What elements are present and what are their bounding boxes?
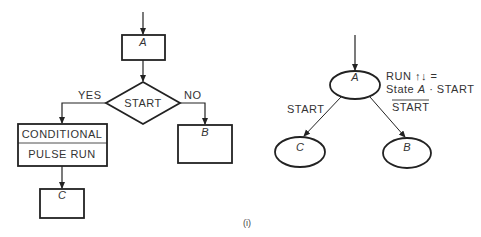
output-line2-prefix: State <box>386 83 418 95</box>
state-c-label-sd: C <box>296 141 304 153</box>
state-a-label: A <box>138 36 146 48</box>
state-b-label-sd: B <box>403 141 410 153</box>
state-c-label: C <box>58 189 66 201</box>
flowchart: A START YES NO CONDITIONAL PULSE RUN B C <box>18 12 232 218</box>
yes-label: YES <box>78 89 102 101</box>
transition-to-b-label: START <box>392 101 430 113</box>
no-label: NO <box>184 89 202 101</box>
action-line2: PULSE RUN <box>28 148 95 160</box>
state-a-label-sd: A <box>350 71 358 83</box>
state-diagram: A RUN ↑↓ = State A · START START START C… <box>275 35 474 168</box>
decision-label: START <box>124 97 162 109</box>
output-line2-suffix: · START <box>426 83 475 95</box>
state-b-label: B <box>201 126 208 138</box>
transition-to-c-label: START <box>287 103 325 115</box>
output-line2: State A · START <box>386 83 474 95</box>
action-line1: CONDITIONAL <box>22 128 103 140</box>
output-line1: RUN ↑↓ = <box>386 70 437 82</box>
output-line2-state: A <box>417 83 426 95</box>
no-branch-line <box>180 103 205 124</box>
diagram-canvas: A START YES NO CONDITIONAL PULSE RUN B C… <box>0 0 481 237</box>
yes-branch-line <box>62 103 106 123</box>
figure-caption: (i) <box>243 218 251 228</box>
